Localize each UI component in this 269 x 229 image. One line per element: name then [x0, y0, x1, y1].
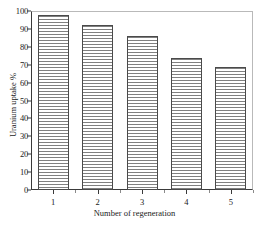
- bar-series: [0, 0, 269, 190]
- x-minor-tick-mark: [75, 190, 76, 193]
- x-tick-label: 4: [184, 197, 188, 207]
- bar: [215, 67, 246, 191]
- x-tick-label: 3: [140, 197, 144, 207]
- x-axis-title: Number of regeneration: [0, 208, 269, 218]
- x-minor-tick-mark: [253, 190, 254, 193]
- bar: [127, 36, 158, 190]
- x-axis: 12345: [0, 190, 269, 210]
- x-tick-mark: [142, 190, 143, 194]
- x-tick-label: 5: [229, 197, 233, 207]
- x-tick-mark: [231, 190, 232, 194]
- bar: [82, 25, 113, 190]
- x-tick-mark: [53, 190, 54, 194]
- bar: [38, 15, 69, 190]
- bar: [171, 58, 202, 190]
- x-tick-label: 1: [51, 197, 55, 207]
- x-tick-mark: [186, 190, 187, 194]
- bar-chart-figure: 0102030405060708090100 Uranium uptake % …: [0, 0, 269, 229]
- x-minor-tick-mark: [209, 190, 210, 193]
- x-tick-label: 2: [95, 197, 99, 207]
- x-tick-mark: [98, 190, 99, 194]
- x-minor-tick-mark: [164, 190, 165, 193]
- x-minor-tick-mark: [120, 190, 121, 193]
